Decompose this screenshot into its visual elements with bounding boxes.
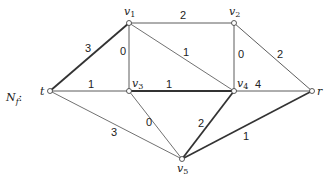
weight-t-v1: 3 <box>85 42 91 54</box>
weight-t-v5: 3 <box>111 126 117 138</box>
weight-v5-v4: 2 <box>198 117 204 129</box>
weight-v1-v2: 2 <box>180 9 186 21</box>
weight-v1-v3: 0 <box>120 45 126 57</box>
edge-v5-v4 <box>182 91 234 159</box>
label-v2: v2 <box>229 5 240 19</box>
node-t <box>48 89 53 94</box>
label-v3: v3 <box>132 77 143 91</box>
weight-v4-r: 4 <box>255 78 261 90</box>
node-v1 <box>127 21 132 26</box>
label-v4: v4 <box>237 77 248 91</box>
network-title: Nf: <box>5 91 22 106</box>
weight-v5-v3: 0 <box>146 116 152 128</box>
label-t: t <box>40 85 45 98</box>
node-v5 <box>180 157 185 162</box>
weight-v4-v2: 0 <box>238 48 244 60</box>
node-v4 <box>232 89 237 94</box>
label-v5: v5 <box>177 162 188 176</box>
edge-v1-v4 <box>129 23 234 91</box>
node-v3 <box>127 89 132 94</box>
node-r <box>310 89 315 94</box>
weight-t-v3: 1 <box>88 78 94 90</box>
network-diagram: Nf: <box>0 0 329 182</box>
node-v2 <box>232 21 237 26</box>
edge-v5-v3 <box>129 91 182 159</box>
edge-v2-r <box>234 23 312 91</box>
weight-v5-r: 1 <box>243 130 249 142</box>
label-r: r <box>317 85 323 98</box>
edge-t-v5 <box>50 91 182 159</box>
weight-v3-v4: 1 <box>166 78 172 90</box>
label-v1: v1 <box>124 5 135 19</box>
weight-v1-v4: 1 <box>183 46 189 58</box>
weight-v2-r: 2 <box>277 48 283 60</box>
